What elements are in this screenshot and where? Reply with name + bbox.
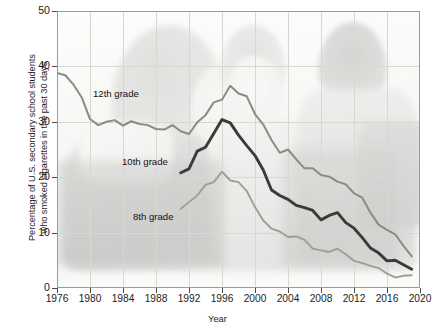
x-axis-label: Year (0, 314, 435, 324)
y-tick-label: 10 (0, 226, 50, 238)
y-tick-label: 20 (0, 170, 50, 182)
series-label-8th-grade: 8th grade (133, 211, 174, 222)
y-tick-label: 40 (0, 59, 50, 71)
plot-area (57, 11, 420, 288)
y-tick (52, 66, 57, 67)
x-tick-label: 2020 (399, 293, 435, 304)
series-label-12th-grade: 12th grade (93, 88, 139, 99)
chart-figure: Percentage of U.S. secondary school stud… (0, 0, 435, 332)
data-lines (57, 11, 420, 288)
y-tick-label: 0 (0, 281, 50, 293)
y-tick-label: 50 (0, 4, 50, 16)
y-tick (52, 233, 57, 234)
series-line-12th-grade (57, 73, 412, 256)
series-line-8th-grade (181, 172, 412, 278)
y-tick (52, 11, 57, 12)
y-tick-label: 30 (0, 115, 50, 127)
y-tick (52, 177, 57, 178)
y-axis-label: Percentage of U.S. secondary school stud… (27, 13, 50, 283)
y-tick (52, 122, 57, 123)
series-line-10th-grade (181, 120, 412, 270)
series-label-10th-grade: 10th grade (122, 156, 168, 167)
